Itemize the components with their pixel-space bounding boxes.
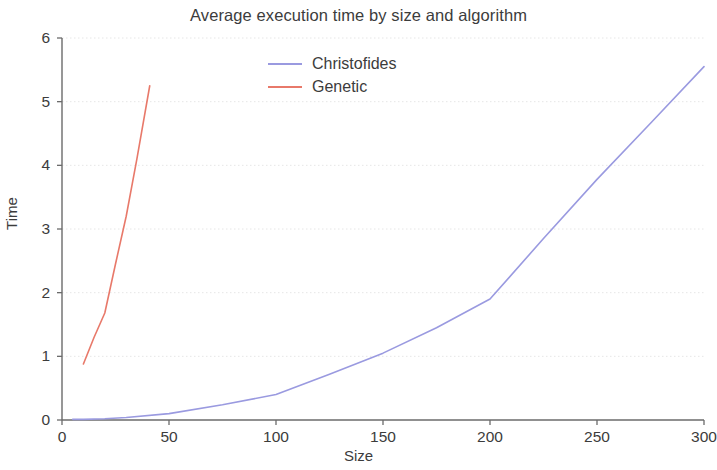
y-tick-label: 0 bbox=[14, 412, 50, 428]
x-tick-label: 100 bbox=[246, 429, 306, 445]
legend-label-genetic: Genetic bbox=[312, 78, 367, 96]
y-tick-label: 5 bbox=[14, 94, 50, 110]
legend-swatch-genetic bbox=[268, 86, 302, 88]
y-tick-label: 4 bbox=[14, 157, 50, 173]
chart-container: Average execution time by size and algor… bbox=[0, 0, 717, 470]
x-tick-label: 250 bbox=[567, 429, 627, 445]
x-axis-title: Size bbox=[0, 447, 717, 464]
legend-item: Genetic bbox=[268, 75, 396, 98]
legend-item: Christofides bbox=[268, 52, 396, 75]
x-tick-label: 300 bbox=[674, 429, 717, 445]
y-tick-label: 6 bbox=[14, 30, 50, 46]
y-tick-label: 1 bbox=[14, 348, 50, 364]
data-series bbox=[73, 67, 704, 420]
legend-label-christofides: Christofides bbox=[312, 55, 396, 73]
chart-title: Average execution time by size and algor… bbox=[0, 6, 717, 25]
y-tick-label: 3 bbox=[14, 221, 50, 237]
x-tick-label: 0 bbox=[32, 429, 92, 445]
x-tick-label: 200 bbox=[460, 429, 520, 445]
x-tick-label: 150 bbox=[353, 429, 413, 445]
legend-swatch-christofides bbox=[268, 63, 302, 65]
y-tick-label: 2 bbox=[14, 285, 50, 301]
chart-legend: Christofides Genetic bbox=[268, 52, 396, 98]
x-tick-label: 50 bbox=[139, 429, 199, 445]
